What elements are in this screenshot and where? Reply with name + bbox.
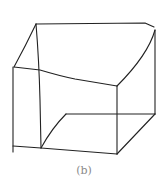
edge-top-left [14,24,36,67]
edge-inner-vertical [36,24,41,148]
edge-bottom-front [13,146,117,154]
edge-front-top [14,67,117,86]
cube-sketch [0,0,168,186]
edge-top-right [117,30,155,86]
edge-bottom-left-diag [41,114,66,148]
edge-bottom-right-diag [117,114,155,154]
edge-top-back [36,23,154,27]
figure-caption: (b) [0,164,168,177]
